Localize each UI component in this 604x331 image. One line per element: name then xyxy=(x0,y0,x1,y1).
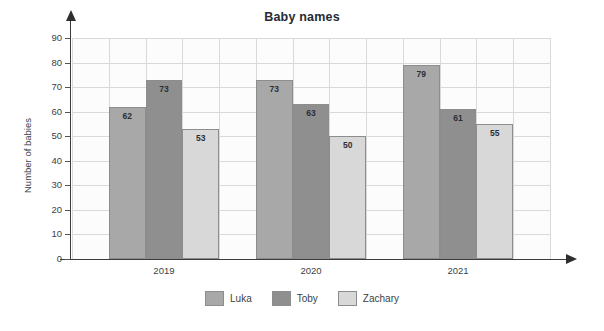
bar-value-label: 62 xyxy=(110,111,145,121)
bar-toby-2020[interactable]: 63 xyxy=(293,104,330,259)
bar-luka-2020[interactable]: 73 xyxy=(256,80,293,259)
gridline-vertical xyxy=(72,38,73,259)
y-tick-mark xyxy=(65,38,70,39)
chart-legend: LukaTobyZachary xyxy=(0,291,604,306)
gridline-horizontal xyxy=(72,63,550,64)
gridline-vertical xyxy=(513,38,514,259)
y-tick-label: 80 xyxy=(36,57,62,68)
legend-label-luka: Luka xyxy=(230,293,252,304)
bar-value-label: 50 xyxy=(330,140,365,150)
y-tick-mark xyxy=(65,185,70,186)
legend-swatch-toby xyxy=(272,291,291,306)
bar-value-label: 73 xyxy=(147,84,182,94)
legend-label-zachary: Zachary xyxy=(363,293,399,304)
y-tick-label: 70 xyxy=(36,81,62,92)
bar-zachary-2020[interactable]: 50 xyxy=(329,136,366,259)
y-tick-mark xyxy=(65,259,70,260)
legend-item-toby[interactable]: Toby xyxy=(272,291,318,306)
bar-luka-2021[interactable]: 79 xyxy=(403,65,440,259)
gridline-horizontal xyxy=(72,87,550,88)
y-tick-label: 20 xyxy=(36,204,62,215)
x-axis-label-2019: 2019 xyxy=(134,265,194,276)
legend-swatch-zachary xyxy=(338,291,357,306)
y-tick-mark xyxy=(65,87,70,88)
legend-item-luka[interactable]: Luka xyxy=(205,291,252,306)
x-axis-line xyxy=(60,259,568,260)
y-tick-label: 60 xyxy=(36,106,62,117)
gridline-horizontal xyxy=(72,38,550,39)
y-tick-mark xyxy=(65,136,70,137)
y-tick-label: 50 xyxy=(36,130,62,141)
y-tick-mark xyxy=(65,161,70,162)
y-tick-mark xyxy=(65,63,70,64)
y-tick-label: 10 xyxy=(36,228,62,239)
x-axis-label-2020: 2020 xyxy=(281,265,341,276)
bar-value-label: 63 xyxy=(294,108,329,118)
arrow-right-icon xyxy=(566,254,577,264)
bar-value-label: 61 xyxy=(441,113,476,123)
arrow-up-icon xyxy=(66,10,76,21)
legend-item-zachary[interactable]: Zachary xyxy=(338,291,399,306)
bar-value-label: 79 xyxy=(404,69,439,79)
chart-title: Baby names xyxy=(0,10,604,24)
bar-zachary-2021[interactable]: 55 xyxy=(476,124,513,259)
legend-label-toby: Toby xyxy=(297,293,318,304)
gridline-vertical xyxy=(550,38,551,259)
bar-zachary-2019[interactable]: 53 xyxy=(182,129,219,259)
bar-luka-2019[interactable]: 62 xyxy=(109,107,146,259)
legend-swatch-luka xyxy=(205,291,224,306)
bar-value-label: 73 xyxy=(257,84,292,94)
bar-toby-2021[interactable]: 61 xyxy=(440,109,477,259)
bar-toby-2019[interactable]: 73 xyxy=(146,80,183,259)
y-tick-label: 90 xyxy=(36,32,62,43)
x-axis-label-2021: 2021 xyxy=(428,265,488,276)
y-axis-ticks: 0102030405060708090 xyxy=(0,0,62,331)
plot-area: 627353736350796155 xyxy=(72,38,550,259)
y-axis-line xyxy=(70,18,71,259)
y-tick-mark xyxy=(65,112,70,113)
y-tick-label: 40 xyxy=(36,155,62,166)
y-tick-mark xyxy=(65,234,70,235)
y-tick-label: 30 xyxy=(36,179,62,190)
y-tick-mark xyxy=(65,210,70,211)
y-tick-label: 0 xyxy=(36,253,62,264)
gridline-vertical xyxy=(366,38,367,259)
bar-value-label: 55 xyxy=(477,128,512,138)
bar-chart: Baby names Number of babies 627353736350… xyxy=(0,0,604,331)
bar-value-label: 53 xyxy=(183,133,218,143)
gridline-vertical xyxy=(219,38,220,259)
